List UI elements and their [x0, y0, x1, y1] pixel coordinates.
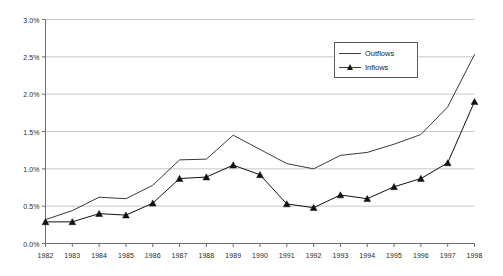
x-axis-tick-label: 1991 — [279, 252, 295, 259]
legend-line-triangle-icon — [339, 61, 361, 73]
data-point-marker — [417, 175, 424, 181]
x-axis-tick-label: 1982 — [38, 252, 54, 259]
y-axis-tick-label: 2.0% — [23, 91, 39, 98]
data-point-marker — [444, 160, 451, 166]
x-axis-tick-label: 1994 — [359, 252, 375, 259]
line-chart: 0.0%0.5%1.0%1.5%2.0%2.5%3.0% 19821983198… — [0, 0, 503, 276]
x-axis-tick-label: 1989 — [225, 252, 241, 259]
y-axis-tick-label: 2.5% — [23, 53, 39, 60]
y-axis-tick-label: 1.5% — [23, 128, 39, 135]
chart-canvas — [0, 0, 503, 276]
x-axis-tick-label: 1983 — [64, 252, 80, 259]
x-axis-tick-label: 1985 — [118, 252, 134, 259]
x-axis-tick-label: 1986 — [145, 252, 161, 259]
data-point-marker — [391, 184, 398, 190]
x-axis-tick-label: 1990 — [252, 252, 268, 259]
x-axis-tick-label: 1984 — [91, 252, 107, 259]
x-axis-tick-label: 1992 — [306, 252, 322, 259]
y-axis-tick-label: 0.5% — [23, 203, 39, 210]
data-point-marker — [471, 98, 478, 104]
legend-item-outflows: Outflows — [339, 46, 411, 60]
x-axis-tick-label: 1995 — [386, 252, 402, 259]
x-axis-tick-label: 1997 — [440, 252, 456, 259]
y-axis-tick-label: 1.0% — [23, 165, 39, 172]
x-axis-tick-label: 1988 — [198, 252, 214, 259]
x-axis-tick-label: 1987 — [172, 252, 188, 259]
chart-legend: Outflows Inflows — [334, 42, 418, 78]
legend-label-outflows: Outflows — [365, 49, 394, 58]
legend-label-inflows: Inflows — [365, 63, 388, 72]
y-axis-tick-label: 0.0% — [23, 240, 39, 247]
legend-item-inflows: Inflows — [339, 60, 411, 74]
data-point-marker — [257, 172, 264, 178]
legend-line-icon — [339, 47, 361, 59]
series-line-outflows — [46, 55, 475, 220]
data-point-marker — [230, 162, 237, 168]
x-axis-tick-label: 1998 — [467, 252, 483, 259]
x-axis-tick-label: 1996 — [413, 252, 429, 259]
x-axis-tick-label: 1993 — [332, 252, 348, 259]
y-axis-tick-label: 3.0% — [23, 16, 39, 23]
series-line-inflows — [46, 102, 475, 222]
